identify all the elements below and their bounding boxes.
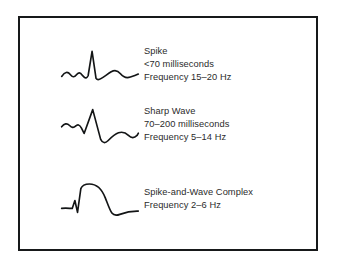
caption-spike-duration: <70 milliseconds [144,58,324,71]
caption-sharp-wave-duration: 70–200 milliseconds [144,118,324,131]
caption-spike-and-wave-complex-name: Spike-and-Wave Complex [144,186,324,199]
eeg-waveform-figure: Spike <70 milliseconds Frequency 15–20 H… [0,0,338,269]
caption-spike-frequency: Frequency 15–20 Hz [144,71,324,84]
caption-sharp-wave-name: Sharp Wave [144,105,324,118]
caption-spike-name: Spike [144,45,324,58]
eeg-spike-waveform-icon [60,48,140,85]
eeg-sharp-wave-waveform-icon [60,105,140,148]
caption-sharp-wave-frequency: Frequency 5–14 Hz [144,131,324,144]
caption-spike: Spike <70 milliseconds Frequency 15–20 H… [144,45,324,85]
caption-spike-and-wave-complex: Spike-and-Wave Complex Frequency 2–6 Hz [144,186,324,212]
caption-sharp-wave: Sharp Wave 70–200 milliseconds Frequency… [144,105,324,145]
eeg-spike-and-wave-complex-waveform-icon [60,182,140,221]
caption-spike-and-wave-complex-frequency: Frequency 2–6 Hz [144,199,324,212]
